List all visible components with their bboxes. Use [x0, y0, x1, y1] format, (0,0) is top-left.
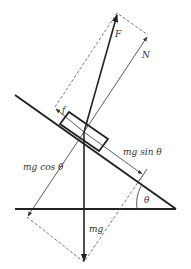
- incline-force-diagram: F N f mg sin θ mg cos θ mg θ: [0, 0, 191, 269]
- label-F: F: [115, 30, 121, 39]
- dashed-construction-upper: [55, 13, 148, 107]
- mg-cos-vector: [28, 132, 84, 216]
- label-mg-sin: mg sin θ: [123, 148, 162, 157]
- label-mg: mg: [89, 225, 103, 234]
- force-F-vector: [84, 15, 117, 132]
- label-f: f: [62, 106, 65, 115]
- label-N: N: [142, 51, 150, 60]
- normal-N-vector: [84, 37, 147, 132]
- label-mg-cos: mg cos θ: [23, 163, 64, 172]
- dashed-construction-lower: [27, 172, 145, 262]
- theta-arc: [137, 186, 141, 209]
- label-theta: θ: [144, 196, 149, 205]
